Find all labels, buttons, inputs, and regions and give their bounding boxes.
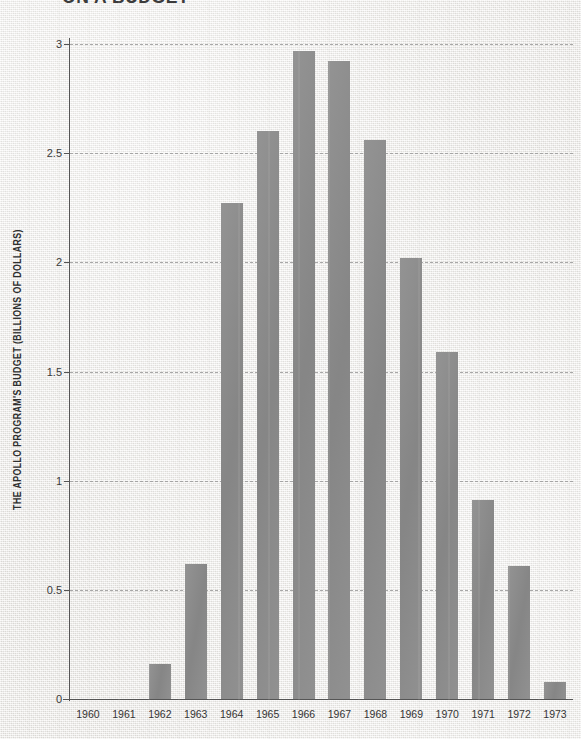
bar-1973 (544, 682, 566, 699)
bar-1963 (185, 564, 207, 699)
x-axis-tick-label-1967: 1967 (328, 708, 351, 720)
bar-1962 (149, 664, 171, 699)
y-axis-tick-mark (64, 590, 69, 591)
x-axis-tick-label-1966: 1966 (292, 708, 315, 720)
x-axis-tick-label-1963: 1963 (184, 708, 207, 720)
y-axis-tick-label: 0.5 (22, 584, 62, 596)
x-axis-tick-label-1961: 1961 (112, 708, 135, 720)
x-axis-tick-label-1964: 1964 (220, 708, 243, 720)
bar-1969 (400, 258, 422, 699)
y-axis-tick-mark (64, 481, 69, 482)
x-axis-tick-label-1968: 1968 (364, 708, 387, 720)
x-axis-line (63, 699, 573, 700)
y-axis-tick-label: 2 (22, 256, 62, 268)
gridline-y-2.5 (70, 153, 573, 154)
chart-title-clipped: ON A BUDGET (0, 0, 581, 9)
x-axis-tick-label-1960: 1960 (76, 708, 99, 720)
bar-1968 (364, 140, 386, 699)
bar-1967 (328, 61, 350, 699)
y-axis-tick-label: 1.5 (22, 366, 62, 378)
gridline-y-3 (70, 44, 573, 45)
y-axis-tick-mark (64, 372, 69, 373)
bar-1964 (221, 203, 243, 699)
plot-area (70, 44, 573, 699)
x-axis-tick-label-1970: 1970 (436, 708, 459, 720)
x-axis-tick-label-1973: 1973 (543, 708, 566, 720)
x-axis-tick-label-1962: 1962 (148, 708, 171, 720)
x-axis-tick-label-1969: 1969 (400, 708, 423, 720)
y-axis-tick-mark (64, 44, 69, 45)
gridline-y-0.5 (70, 590, 573, 591)
x-axis-tick-label-1971: 1971 (471, 708, 494, 720)
bar-1971 (472, 500, 494, 699)
gridline-y-2 (70, 262, 573, 263)
y-axis-tick-mark (64, 699, 69, 700)
chart-title-text: ON A BUDGET (62, 0, 189, 8)
bar-1972 (508, 566, 530, 699)
y-axis-tick-label: 1 (22, 475, 62, 487)
x-axis-tick-label-1972: 1972 (507, 708, 530, 720)
y-axis-tick-mark (64, 262, 69, 263)
y-axis-tick-label: 2.5 (22, 147, 62, 159)
x-axis-tick-label-1965: 1965 (256, 708, 279, 720)
y-axis-tick-label: 3 (22, 38, 62, 50)
y-axis-line (69, 38, 70, 701)
bar-1966 (293, 51, 315, 699)
y-axis-tick-mark (64, 153, 69, 154)
bar-1965 (257, 131, 279, 699)
bar-chart: ON A BUDGET THE APOLLO PROGRAM'S BUDGET … (0, 0, 581, 739)
gridline-y-1 (70, 481, 573, 482)
y-axis-tick-label: 0 (22, 693, 62, 705)
bar-1970 (436, 352, 458, 699)
gridline-y-1.5 (70, 372, 573, 373)
